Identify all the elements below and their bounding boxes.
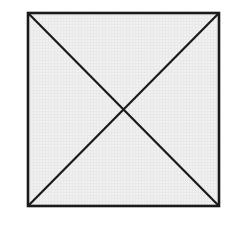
diagram-canvas bbox=[0, 0, 228, 226]
